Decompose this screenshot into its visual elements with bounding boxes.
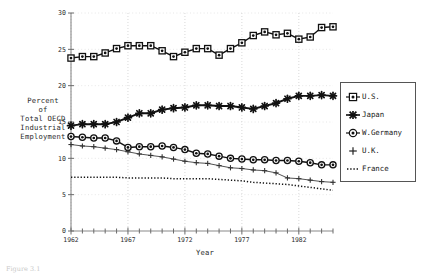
data-point-marker-dot	[309, 36, 312, 39]
series-us	[68, 24, 336, 61]
data-point-marker-dot	[286, 159, 289, 162]
data-point-marker-dot	[104, 52, 107, 55]
data-point-marker-dot	[229, 157, 232, 160]
x-tick-label: 1982	[291, 236, 307, 244]
data-point-marker	[137, 151, 142, 156]
data-point-marker	[205, 161, 210, 166]
data-point-marker-dot	[218, 155, 221, 158]
data-point-marker-dot	[104, 137, 107, 140]
y-tick-label: 5	[62, 191, 66, 199]
series-line	[71, 95, 333, 126]
data-point-marker-dot	[275, 33, 278, 36]
y-tick-label: 10	[58, 155, 66, 163]
data-point-marker-dot	[92, 137, 95, 140]
data-point-marker	[250, 105, 257, 112]
data-point-marker	[79, 121, 86, 128]
data-point-marker-dot	[115, 47, 118, 50]
data-point-marker-dot	[241, 158, 244, 161]
data-point-marker	[80, 143, 85, 148]
data-point-marker	[160, 154, 165, 159]
data-point-marker-dot	[81, 136, 84, 139]
data-point-marker-dot	[332, 164, 335, 167]
data-point-marker-dot	[332, 25, 335, 28]
x-tick-label: 1972	[177, 236, 193, 244]
data-point-marker	[296, 176, 301, 181]
data-point-marker-dot	[184, 51, 187, 54]
data-point-marker	[330, 92, 337, 99]
data-point-marker-dot	[70, 57, 73, 60]
legend-label: France	[362, 165, 389, 172]
data-point-marker-dot	[138, 145, 141, 148]
data-point-marker	[90, 121, 97, 128]
data-point-marker-dot	[297, 160, 300, 163]
data-point-marker-dot	[81, 55, 84, 58]
legend-label: U.K.	[362, 147, 380, 154]
y-axis-title-line: of	[12, 105, 74, 114]
data-point-marker-dot	[149, 145, 152, 148]
data-point-marker-dot	[195, 152, 198, 155]
x-axis-title: Year	[160, 248, 250, 257]
data-point-marker	[182, 159, 187, 164]
data-point-marker	[228, 165, 233, 170]
y-axis-title: PercentofTotal OECDIndustrialEmployment	[12, 96, 74, 141]
legend-item-uk[interactable]: U.K.	[346, 142, 415, 160]
data-point-marker	[193, 102, 200, 109]
data-point-marker-dot	[115, 140, 118, 143]
data-point-marker-dot	[127, 146, 130, 149]
data-point-marker-dot	[263, 158, 266, 161]
circle-dot-marker-icon	[346, 127, 360, 139]
y-tick-label: 25	[58, 46, 66, 54]
data-point-marker	[295, 92, 302, 99]
data-point-marker-dot	[297, 38, 300, 41]
data-point-marker	[114, 147, 119, 152]
legend-label: U.S.	[362, 93, 380, 100]
y-axis-title-line: Industrial	[12, 123, 74, 132]
data-point-marker	[284, 95, 291, 102]
legend-item-japan[interactable]: Japan	[346, 106, 415, 124]
series-japan	[68, 92, 337, 130]
data-point-marker-dot	[275, 159, 278, 162]
y-axis-title-line: Employment	[12, 132, 74, 141]
grid-lines	[71, 13, 333, 231]
data-point-marker	[330, 180, 335, 185]
data-point-marker-dot	[172, 55, 175, 58]
data-point-marker-dot	[252, 34, 255, 37]
dotted-line-marker-icon	[346, 163, 360, 175]
data-point-marker-dot	[161, 49, 164, 52]
data-point-marker	[238, 104, 245, 111]
data-point-marker	[216, 163, 221, 168]
data-point-marker	[91, 144, 96, 149]
data-point-marker-dot	[229, 47, 232, 50]
legend-item-france[interactable]: France	[346, 160, 415, 178]
data-point-marker-dot	[320, 164, 323, 167]
data-point-marker	[181, 104, 188, 111]
data-point-marker-dot	[252, 158, 255, 161]
data-point-marker	[319, 179, 324, 184]
plus-marker-icon	[346, 145, 360, 157]
y-tick-label: 20	[58, 82, 66, 90]
data-point-marker	[285, 175, 290, 180]
data-point-marker-dot	[320, 26, 323, 29]
data-point-marker	[136, 110, 143, 117]
data-point-marker	[159, 106, 166, 113]
data-point-marker	[308, 178, 313, 183]
star-marker-icon	[346, 109, 360, 121]
data-point-marker-dot	[172, 146, 175, 149]
data-point-marker	[113, 119, 120, 126]
data-point-marker-dot	[161, 145, 164, 148]
square-dot-marker-icon	[346, 91, 360, 103]
data-point-marker	[68, 142, 73, 147]
data-point-marker-dot	[184, 148, 187, 151]
data-point-marker	[273, 170, 278, 175]
legend-item-wgermany[interactable]: W.Germany	[346, 124, 415, 142]
data-point-marker	[204, 102, 211, 109]
data-point-marker	[124, 114, 131, 121]
data-point-marker-dot	[309, 161, 312, 164]
data-point-marker	[103, 146, 108, 151]
data-point-marker-dot	[127, 44, 130, 47]
legend-label: W.Germany	[362, 129, 402, 136]
legend-label: Japan	[362, 111, 384, 118]
legend-item-us[interactable]: U.S.	[346, 88, 415, 106]
series-uk	[68, 142, 335, 185]
data-point-marker	[261, 103, 268, 110]
